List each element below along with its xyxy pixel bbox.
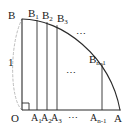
label-point-An-1: An-1 — [90, 113, 107, 123]
label-point-B2: B2 — [42, 10, 53, 21]
label-point-A-text: A — [114, 112, 122, 124]
arc-ellipsis-text: ⋯ — [76, 28, 87, 39]
label-point-Bn-1-sub: n-1 — [96, 59, 105, 67]
label-point-A3: A3 — [51, 113, 62, 123]
label-point-A: A — [114, 113, 122, 124]
label-point-O: O — [11, 113, 19, 124]
right-angle-marker — [22, 103, 29, 110]
label-point-O-text: O — [11, 112, 19, 124]
label-point-B3-sub: 3 — [64, 18, 68, 26]
interior-ellipsis-icon: ⋯ — [66, 67, 77, 78]
label-point-B: B — [8, 10, 15, 21]
label-point-B2-sub: 2 — [49, 15, 53, 23]
label-point-B3: B3 — [57, 13, 68, 24]
label-point-An-1-sub: n-1 — [97, 117, 106, 125]
label-point-B-text: B — [8, 9, 15, 21]
label-point-A3-sub: 3 — [58, 117, 62, 125]
axis-ellipsis-text: ⋯ — [68, 112, 79, 123]
axis-ellipsis-icon: ⋯ — [68, 112, 79, 123]
label-radius-length-text: 1 — [8, 56, 14, 68]
label-point-B1-sub: 1 — [35, 13, 39, 21]
interior-ellipsis-text: ⋯ — [66, 67, 77, 78]
label-radius-length: 1 — [8, 57, 14, 68]
label-point-Bn-1: Bn-1 — [89, 54, 106, 65]
label-point-B1: B1 — [28, 8, 39, 19]
dashed-radius-arc — [13, 19, 22, 110]
geometry-figure: B B1 B2 B3 Bn-1 1 O A1 A2 A3 An-1 A ⋯ ⋯ — [0, 0, 129, 138]
arc-ellipsis-icon: ⋯ — [76, 28, 87, 39]
